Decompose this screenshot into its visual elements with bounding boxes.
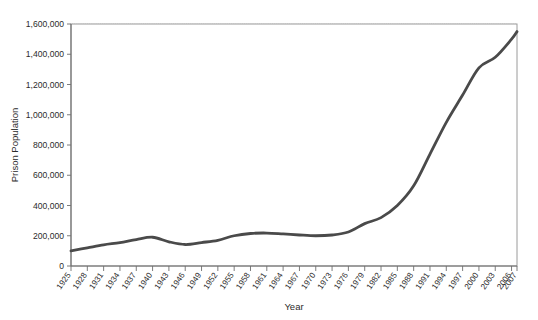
y-tick-label: 200,000 <box>33 231 64 241</box>
prison-population-chart: 0200,000400,000600,000800,0001,000,0001,… <box>0 0 538 320</box>
x-axis-title: Year <box>284 301 303 312</box>
y-tick-label: 1,000,000 <box>26 110 64 120</box>
y-tick-label: 1,200,000 <box>26 80 64 90</box>
y-tick-label: 1,600,000 <box>26 19 64 29</box>
chart-canvas: 0200,000400,000600,000800,0001,000,0001,… <box>0 0 538 320</box>
y-tick-label: 600,000 <box>33 170 64 180</box>
y-axis-title: Prison Population <box>9 108 20 182</box>
y-tick-label: 0 <box>59 261 64 271</box>
plot-area-border <box>71 24 517 266</box>
y-tick-label: 400,000 <box>33 201 64 211</box>
y-tick-label: 800,000 <box>33 140 64 150</box>
y-tick-label: 1,400,000 <box>26 49 64 59</box>
